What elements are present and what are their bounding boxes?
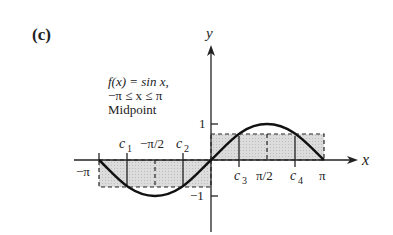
x-tick-c1-sub: 1 <box>127 143 132 154</box>
x-tick-c2-sub: 2 <box>184 143 189 154</box>
x-tick-c1: c <box>119 136 126 151</box>
function-label: f(x) = sin x, <box>108 74 169 89</box>
x-tick-neg-pi: −π <box>76 164 90 179</box>
x-tick-c4: c <box>290 168 297 183</box>
x-tick-c3: c <box>234 168 241 183</box>
x-tick-pi: π <box>319 168 326 183</box>
y-tick-neg-1: −1 <box>190 188 204 203</box>
x-tick-c3-sub: 3 <box>242 175 247 186</box>
x-tick-c4-sub: 4 <box>298 175 303 186</box>
x-tick-c2: c <box>176 136 183 151</box>
x-axis-label: x <box>361 151 369 168</box>
panel-label: (c) <box>32 25 51 44</box>
domain-label: −π ≤ x ≤ π <box>108 88 163 103</box>
y-tick-1: 1 <box>199 116 206 131</box>
method-label: Midpoint <box>108 102 157 117</box>
y-axis-label: y <box>204 25 213 41</box>
x-tick-neg-pi-half: −π/2 <box>140 136 164 151</box>
x-tick-pi-half: π/2 <box>256 168 273 183</box>
riemann-sum-diagram: (c) f(x) = sin x, −π ≤ x ≤ π Midpoint y … <box>0 0 393 235</box>
